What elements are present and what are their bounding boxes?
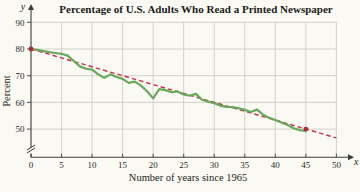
x-axis-label: Number of years since 1965: [129, 172, 247, 183]
newspaper-readership-chart: 051015202530354045505060708090 Percentag…: [0, 0, 360, 192]
x-axis-symbol: x: [353, 156, 359, 167]
y-axis-label: Percent: [1, 75, 12, 107]
y-tick-label: 70: [16, 71, 26, 81]
chart-title: Percentage of U.S. Adults Who Read a Pri…: [59, 3, 332, 15]
x-tick-label: 30: [210, 160, 220, 170]
x-tick-label: 50: [332, 160, 342, 170]
x-tick-label: 40: [271, 160, 281, 170]
x-tick-label: 5: [59, 160, 64, 170]
x-tick-label: 20: [149, 160, 159, 170]
trend-endpoint-dot: [29, 47, 34, 52]
trend-endpoint-dot: [303, 127, 308, 132]
x-tick-label: 35: [240, 160, 250, 170]
x-tick-label: 0: [29, 160, 34, 170]
x-tick-label: 10: [88, 160, 98, 170]
y-tick-label: 90: [16, 18, 26, 28]
x-tick-label: 15: [118, 160, 128, 170]
y-tick-label: 60: [16, 98, 26, 108]
y-tick-label: 50: [16, 124, 26, 134]
x-tick-label: 25: [179, 160, 189, 170]
y-axis-symbol: y: [20, 1, 26, 12]
newspaper-readership-figure: 051015202530354045505060708090 Percentag…: [0, 0, 360, 192]
x-tick-label: 45: [301, 160, 311, 170]
y-tick-label: 80: [16, 44, 26, 54]
